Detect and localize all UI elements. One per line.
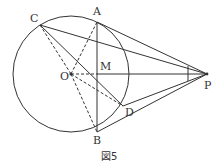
geometry-figure: C A M O D B P 図5 [0, 0, 223, 166]
label-m: M [100, 60, 111, 73]
center-point-o [69, 72, 72, 75]
tangent-pa [97, 22, 207, 74]
label-c: C [30, 12, 38, 25]
radius-ob [71, 74, 97, 132]
point-p [206, 73, 209, 76]
label-d: D [125, 106, 134, 119]
label-p: P [204, 79, 212, 92]
segment-pd [123, 74, 207, 106]
label-o: O [60, 70, 69, 83]
radius-oa [71, 22, 97, 74]
label-a: A [92, 5, 102, 18]
tangent-pb [97, 74, 207, 132]
label-b: B [93, 134, 101, 147]
figure-caption: 図5 [101, 151, 117, 162]
